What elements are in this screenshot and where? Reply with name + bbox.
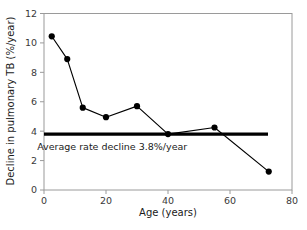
data-point-marker <box>80 105 86 111</box>
data-point-marker <box>64 56 70 62</box>
data-point-marker <box>103 114 109 120</box>
y-axis-title: Decline in pulmonary TB (%/year) <box>5 16 16 185</box>
x-axis-ticks: 020406080 <box>41 190 298 206</box>
x-axis-title: Age (years) <box>139 207 197 218</box>
y-axis-ticks: 024681012 <box>25 8 44 196</box>
y-tick-label: 12 <box>25 8 37 19</box>
data-point-marker <box>134 103 140 109</box>
y-tick-label: 10 <box>25 37 37 48</box>
data-point-marker <box>266 169 272 175</box>
chart-figure: 024681012 020406080 Average rate decline… <box>0 0 307 230</box>
y-tick-label: 6 <box>31 96 37 107</box>
x-tick-label: 20 <box>100 195 112 206</box>
x-tick-label: 0 <box>41 195 47 206</box>
x-tick-label: 60 <box>224 195 236 206</box>
x-tick-label: 40 <box>162 195 174 206</box>
x-tick-label: 80 <box>286 195 298 206</box>
data-point-marker <box>165 131 171 137</box>
y-tick-label: 2 <box>31 155 37 166</box>
chart-canvas: 024681012 020406080 Average rate decline… <box>0 0 307 230</box>
y-tick-label: 0 <box>31 184 37 195</box>
average-rate-annotation: Average rate decline 3.8%/year <box>37 141 187 152</box>
y-tick-label: 8 <box>31 67 37 78</box>
y-tick-label: 4 <box>31 126 37 137</box>
data-point-marker <box>211 124 217 130</box>
data-point-marker <box>49 33 55 39</box>
